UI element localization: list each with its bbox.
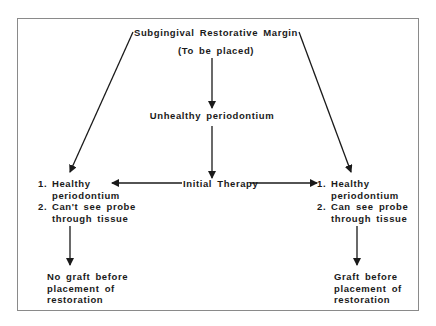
left-outcome-node: No graft before placement of restoration	[47, 271, 128, 306]
top-subtitle: (To be placed)	[126, 45, 306, 57]
arrow-top-to-right	[299, 32, 351, 172]
right-outcome-node: Graft before placement of restoration	[334, 271, 402, 306]
right-item-2: 2.Can see probe through tissue	[317, 201, 408, 224]
therapy-node: Initial Therapy	[183, 178, 258, 190]
left-item-1: 1.Healthy periodontium	[38, 178, 136, 201]
top-node: Subgingival Restorative Margin (To be pl…	[126, 27, 306, 56]
arrow-top-to-left	[70, 32, 133, 172]
right-condition-node: 1.Healthy periodontium 2.Can see probe t…	[317, 178, 408, 224]
right-item-1: 1.Healthy periodontium	[317, 178, 408, 201]
unhealthy-node: Unhealthy periodontium	[142, 110, 282, 122]
left-item-2: 2.Can't see probe through tissue	[38, 201, 136, 224]
left-condition-node: 1.Healthy periodontium 2.Can't see probe…	[38, 178, 136, 224]
top-title: Subgingival Restorative Margin	[126, 27, 306, 39]
